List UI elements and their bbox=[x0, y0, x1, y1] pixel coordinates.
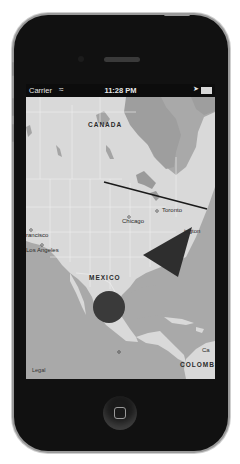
circle-overlay bbox=[93, 291, 125, 323]
sleep-button bbox=[164, 13, 190, 16]
map-view[interactable]: CANADA Chicago Toronto ington rancisco L… bbox=[26, 97, 215, 379]
map-label-toronto: Toronto bbox=[162, 207, 182, 213]
map-label-san-francisco: rancisco bbox=[26, 232, 48, 238]
map-label-washington: ington bbox=[184, 228, 200, 234]
map-label-mexico: MEXICO bbox=[89, 274, 121, 281]
front-camera bbox=[78, 56, 84, 62]
map-label-colombia: COLOMBI bbox=[180, 361, 215, 368]
map-label-ca-partial: Ca bbox=[202, 347, 210, 353]
earpiece-speaker bbox=[104, 57, 140, 62]
clock: 11:28 PM bbox=[26, 86, 215, 95]
volume-down-button bbox=[12, 124, 14, 142]
screen: Carrier ≈ 11:28 PM ➤ bbox=[26, 84, 215, 379]
map-tiles bbox=[26, 97, 215, 379]
map-label-chicago: Chicago bbox=[122, 218, 144, 224]
status-bar: Carrier ≈ 11:28 PM ➤ bbox=[26, 84, 215, 97]
map-label-los-angeles: Los Angeles bbox=[26, 247, 59, 253]
location-arrow-icon: ➤ bbox=[193, 85, 199, 93]
battery-icon bbox=[201, 87, 212, 94]
home-button-icon bbox=[114, 407, 126, 419]
home-button[interactable] bbox=[103, 396, 137, 430]
legal-link[interactable]: Legal bbox=[32, 367, 45, 373]
map-label-canada: CANADA bbox=[88, 121, 122, 128]
volume-up-button bbox=[12, 98, 14, 116]
mute-switch bbox=[12, 62, 14, 76]
